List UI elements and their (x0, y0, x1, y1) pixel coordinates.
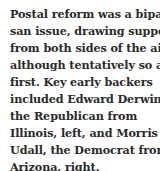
photo-caption: Postal reform was a biparti- san issue, … (10, 6, 160, 171)
caption-line: Illinois, left, and Morris (10, 125, 160, 142)
caption-line: Postal reform was a biparti- (10, 6, 160, 23)
caption-line: the Republican from (10, 108, 160, 125)
caption-line: included Edward Derwinski, (10, 91, 160, 108)
caption-line: although tentatively so at (10, 57, 160, 74)
caption-line: first. Key early backers (10, 74, 160, 91)
caption-line: from both sides of the aisle, (10, 40, 160, 57)
caption-line: san issue, drawing support (10, 23, 160, 40)
caption-line: Udall, the Democrat from (10, 142, 160, 159)
caption-line: Arizona, right. (10, 159, 160, 171)
